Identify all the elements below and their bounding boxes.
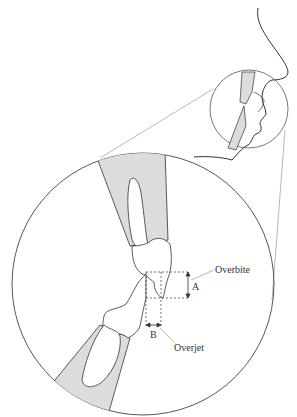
projection-line-left xyxy=(100,89,213,158)
overbite-leader xyxy=(191,270,214,280)
overjet-leader xyxy=(160,328,174,342)
small-lower-tooth xyxy=(228,106,246,150)
label-a: A xyxy=(192,281,200,292)
dental-diagram: Overbite A B Overjet xyxy=(0,0,297,417)
chin-line xyxy=(194,157,232,160)
small-upper-tooth xyxy=(240,72,255,104)
overjet-label: Overjet xyxy=(174,342,204,353)
overbite-label: Overbite xyxy=(215,264,251,275)
label-b: B xyxy=(150,329,157,340)
overjet-arrow xyxy=(146,323,161,327)
overbite-arrow xyxy=(186,272,190,298)
